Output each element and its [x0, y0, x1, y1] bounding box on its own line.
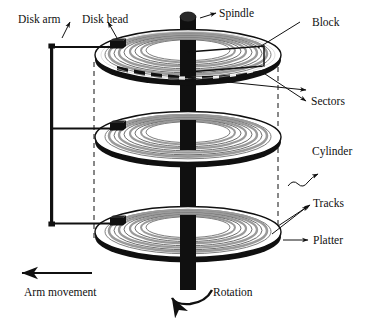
disk-diagram-svg: Disk arm Disk head Spindle Block Sectors… — [0, 0, 369, 319]
block-leader — [258, 22, 300, 48]
spindle-through-bottom-platter — [180, 215, 196, 245]
spindle-leader — [200, 13, 216, 18]
rotation-arrow — [172, 290, 212, 304]
label-disk-head: Disk head — [82, 13, 129, 25]
label-sectors: Sectors — [311, 95, 345, 107]
label-tracks: Tracks — [313, 197, 344, 209]
disk-arm-leader — [62, 22, 70, 38]
spindle-shaft-bottom — [180, 244, 196, 290]
tracks-leader-b — [278, 205, 310, 226]
spindle-through-middle-platter — [180, 120, 196, 150]
disk-structure-diagram: Disk arm Disk head Spindle Block Sectors… — [0, 0, 369, 319]
label-platter: Platter — [313, 234, 343, 246]
label-disk-arm: Disk arm — [18, 13, 61, 25]
label-cylinder: Cylinder — [312, 145, 352, 158]
label-block: Block — [312, 16, 340, 28]
label-rotation: Rotation — [213, 286, 253, 298]
cylinder-leader — [288, 174, 318, 186]
label-arm-movement: Arm movement — [24, 286, 97, 298]
label-spindle: Spindle — [219, 7, 254, 20]
